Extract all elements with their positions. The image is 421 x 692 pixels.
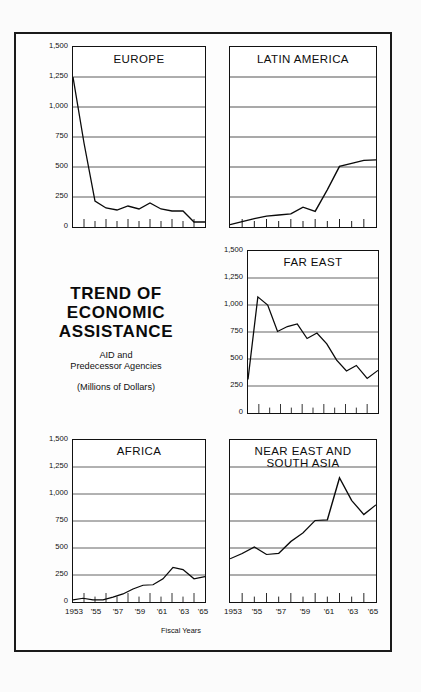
y-tick: 250	[55, 570, 68, 578]
y-tick: 250	[55, 192, 68, 200]
page-title: TREND OF ECONOMIC ASSISTANCE	[26, 284, 206, 341]
x-tick: '61	[324, 607, 334, 616]
far-east-y-axis-labels: 1,500 1,250 1,000 750 500 250 0	[211, 250, 243, 418]
y-tick: 500	[55, 162, 68, 170]
chart-page: 1,500 1,250 1,000 750 500 250 0	[0, 0, 421, 692]
y-tick: 1,500	[49, 435, 68, 443]
europe-series-svg	[73, 47, 205, 227]
y-tick: 1,000	[49, 102, 68, 110]
africa-title: AFRICA	[72, 446, 206, 458]
x-tick: 1953	[65, 607, 83, 616]
y-tick: 0	[64, 222, 68, 230]
x-tick: '65	[198, 607, 208, 616]
europe-y-axis-labels: 1,500 1,250 1,000 750 500 250 0	[36, 46, 68, 232]
africa-y-axis-labels: 1,500 1,250 1,000 750 500 250 0	[36, 439, 68, 607]
y-tick: 0	[64, 597, 68, 605]
x-tick: '63	[348, 607, 358, 616]
latin-america-series-svg	[230, 47, 376, 227]
x-tick: '63	[179, 607, 189, 616]
africa-plot	[72, 439, 206, 603]
y-tick: 500	[230, 354, 243, 362]
x-tick: '61	[157, 607, 167, 616]
panel-europe: 1,500 1,250 1,000 750 500 250 0	[36, 46, 206, 250]
panel-latin-america: LATIN AMERICA	[229, 46, 379, 250]
chart-title-block: TREND OF ECONOMIC ASSISTANCE AID and Pre…	[26, 284, 206, 393]
x-tick: '55	[91, 607, 101, 616]
y-tick: 750	[55, 516, 68, 524]
panel-far-east: 1,500 1,250 1,000 750 500 250 0	[211, 250, 379, 436]
x-tick: '59	[135, 607, 145, 616]
x-tick: '65	[368, 607, 378, 616]
y-tick: 1,250	[49, 72, 68, 80]
y-tick: 1,250	[49, 462, 68, 470]
x-tick: '57	[276, 607, 286, 616]
y-tick: 750	[55, 132, 68, 140]
africa-series-svg	[73, 440, 205, 602]
europe-title: EUROPE	[72, 54, 206, 66]
x-tick: '55	[252, 607, 262, 616]
y-tick: 1,250	[224, 273, 243, 281]
x-tick: '57	[113, 607, 123, 616]
x-tick: '59	[300, 607, 310, 616]
near-east-title: NEAR EAST AND SOUTH ASIA	[229, 446, 377, 469]
y-tick: 1,500	[224, 246, 243, 254]
panel-africa: 1,500 1,250 1,000 750 500 250 0	[36, 439, 206, 639]
y-tick: 250	[230, 381, 243, 389]
panel-near-east-south-asia: NEAR EAST AND SOUTH ASIA 1953 '55 '57 '5…	[229, 439, 379, 639]
chart-subtitle: AID and Predecessor Agencies	[26, 350, 206, 372]
far-east-series-svg	[248, 251, 378, 413]
far-east-plot	[247, 250, 379, 414]
y-tick: 1,500	[49, 42, 68, 50]
chart-units: (Millions of Dollars)	[26, 382, 206, 393]
y-tick: 0	[239, 408, 243, 416]
y-tick: 750	[230, 327, 243, 335]
chart-frame: 1,500 1,250 1,000 750 500 250 0	[14, 32, 392, 652]
europe-plot	[72, 46, 206, 228]
y-tick: 1,000	[49, 489, 68, 497]
y-tick: 1,000	[224, 300, 243, 308]
latin-america-plot	[229, 46, 377, 228]
far-east-title: FAR EAST	[247, 257, 379, 269]
y-tick: 500	[55, 543, 68, 551]
x-tick: 1953	[224, 607, 242, 616]
latin-america-title: LATIN AMERICA	[229, 54, 377, 66]
x-axis-caption: Fiscal Years	[161, 626, 201, 635]
